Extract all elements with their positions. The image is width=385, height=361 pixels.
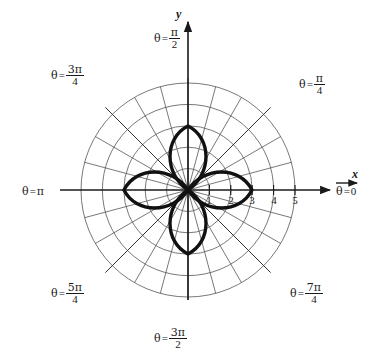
x-axis-label: x <box>352 168 358 180</box>
angle-label-theta-pi-2: θ=π2 <box>154 27 180 51</box>
angle-label-theta-pi-4: θ=π4 <box>299 73 325 97</box>
fraction: π4 <box>314 73 325 97</box>
theta-symbol: θ <box>299 78 306 91</box>
polar-rose-figure: 1 2 3 4 5 y x θ=0 θ=π4 θ=π2 θ=3π4 θ=π θ=… <box>0 0 385 361</box>
equals-sign: = <box>343 185 351 197</box>
radial-tick-label-1: 1 <box>203 194 215 206</box>
radial-tick-label-5: 5 <box>289 194 301 206</box>
radial-tick-label-3: 3 <box>246 194 258 206</box>
fraction: 7π4 <box>305 282 323 306</box>
theta-symbol: θ <box>22 185 29 198</box>
theta-symbol: θ <box>336 185 343 198</box>
angle-label-theta-3pi-4: θ=3π4 <box>51 64 84 88</box>
angle-label-theta-5pi-4: θ=5π4 <box>51 282 84 306</box>
angle-label-theta-0: θ=0 <box>336 186 356 197</box>
polar-plot-canvas <box>0 0 385 361</box>
theta-symbol: θ <box>290 287 297 300</box>
theta-symbol: θ <box>154 32 161 45</box>
fraction: π2 <box>169 27 180 51</box>
angle-value: 0 <box>351 185 357 197</box>
equals-sign: = <box>58 287 66 299</box>
equals-sign: = <box>161 332 169 344</box>
equals-sign: = <box>29 185 37 197</box>
fraction-denominator: 4 <box>66 76 84 88</box>
fraction-denominator: 2 <box>169 39 180 51</box>
theta-symbol: θ <box>51 69 58 82</box>
fraction: 3π2 <box>169 327 187 351</box>
fraction-denominator: 4 <box>314 85 325 97</box>
fraction-denominator: 4 <box>305 294 323 306</box>
angle-label-theta-pi: θ=π <box>22 186 44 197</box>
theta-symbol: θ <box>51 287 58 300</box>
radial-tick-label-2: 2 <box>225 194 237 206</box>
angle-value: π <box>37 185 44 198</box>
fraction-denominator: 4 <box>66 294 84 306</box>
spoke-150 <box>95 137 188 191</box>
equals-sign: = <box>297 287 305 299</box>
y-axis-label: y <box>176 8 181 20</box>
angle-label-theta-3pi-2: θ=3π2 <box>154 327 187 351</box>
spoke-120 <box>135 97 189 190</box>
fraction-denominator: 2 <box>169 339 187 351</box>
fraction: 3π4 <box>66 64 84 88</box>
angle-label-theta-7pi-4: θ=7π4 <box>290 282 323 306</box>
radial-tick-label-4: 4 <box>268 194 280 206</box>
equals-sign: = <box>161 32 169 44</box>
spoke-240 <box>135 190 189 283</box>
spoke-210 <box>95 190 188 244</box>
spoke-60 <box>188 97 242 190</box>
theta-symbol: θ <box>154 332 161 345</box>
fraction: 5π4 <box>66 282 84 306</box>
spoke-30 <box>188 137 281 191</box>
equals-sign: = <box>306 78 314 90</box>
equals-sign: = <box>58 69 66 81</box>
